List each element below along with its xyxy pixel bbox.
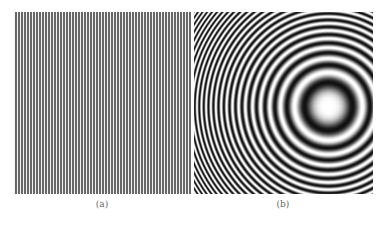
zone-plate-canvas — [194, 12, 373, 194]
caption-a: (a) — [96, 199, 108, 209]
zone-plate-image — [194, 12, 373, 194]
grating-canvas — [14, 12, 191, 194]
vertical-grating-image — [14, 12, 191, 194]
caption-b: (b) — [277, 199, 290, 209]
